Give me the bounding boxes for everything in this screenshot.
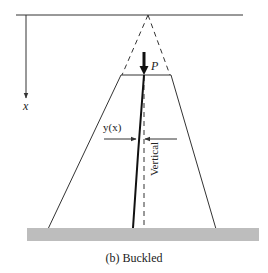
deflection-label: y(x) xyxy=(103,121,121,133)
buckled-column xyxy=(133,75,144,228)
ground-bar xyxy=(27,228,259,241)
x-axis-label: x xyxy=(23,99,28,114)
vertical-label: Vertical xyxy=(148,142,160,176)
buckled-column-diagram xyxy=(0,0,268,273)
figure-caption: (b) Buckled xyxy=(0,251,268,266)
load-label: P xyxy=(151,59,158,74)
left-support-line xyxy=(48,75,121,229)
right-support-line xyxy=(171,75,216,229)
load-arrow-head xyxy=(140,66,149,75)
